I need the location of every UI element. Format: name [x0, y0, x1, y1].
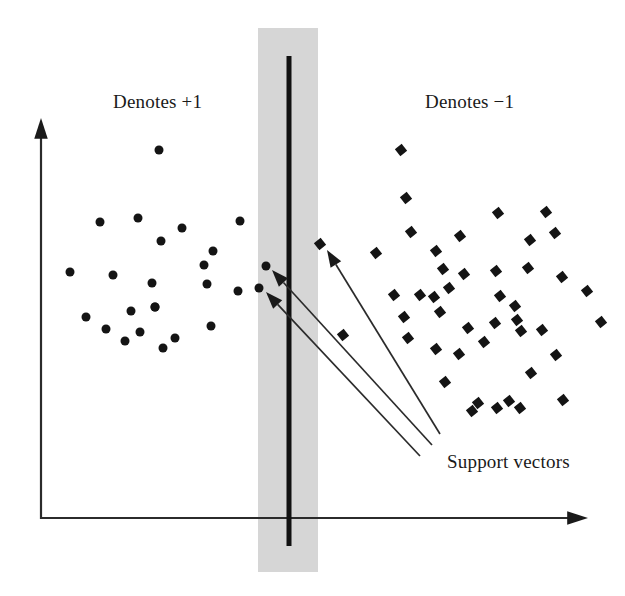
svm-diagram-canvas: Denotes +1 Denotes −1 Support vectors — [0, 0, 625, 596]
data-point-circle — [236, 217, 245, 226]
data-point-circle — [136, 328, 145, 337]
data-point-circle — [148, 279, 157, 288]
data-point-circle — [134, 214, 143, 223]
data-point-circle — [127, 307, 136, 316]
data-point-circle — [207, 322, 216, 331]
data-point-circle — [209, 247, 218, 256]
data-point-circle — [157, 237, 166, 246]
label-denotes-negative: Denotes −1 — [425, 91, 514, 112]
data-point-circle — [109, 271, 118, 280]
data-point-circle — [96, 218, 105, 227]
data-point-circle — [151, 303, 160, 312]
data-point-circle — [155, 146, 164, 155]
label-support-vectors: Support vectors — [447, 451, 570, 472]
data-point-circle — [66, 268, 75, 277]
data-point-circle — [159, 344, 168, 353]
data-point-circle — [255, 284, 264, 293]
data-point-circle — [200, 261, 209, 270]
data-point-circle — [82, 313, 91, 322]
data-point-circle — [234, 287, 243, 296]
data-point-circle — [121, 337, 130, 346]
data-point-circle — [203, 280, 212, 289]
data-point-circle — [262, 262, 271, 271]
label-denotes-positive: Denotes +1 — [113, 91, 202, 112]
data-point-circle — [102, 325, 111, 334]
svm-figure: Denotes +1 Denotes −1 Support vectors — [0, 0, 625, 596]
data-point-circle — [178, 224, 187, 233]
data-point-circle — [171, 334, 180, 343]
